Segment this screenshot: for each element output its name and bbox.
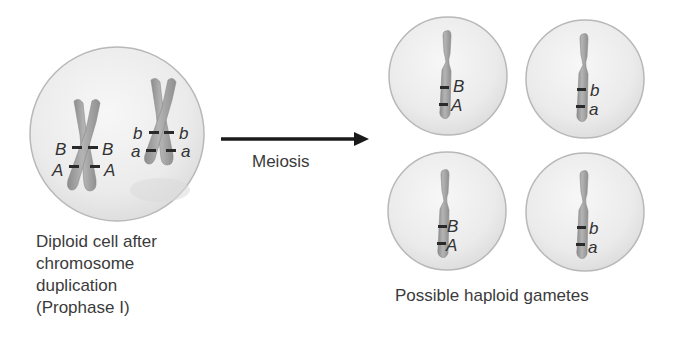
caption-line: Diploid cell after: [36, 231, 216, 253]
diploid-cell-caption: Diploid cell after chromosome duplicatio…: [36, 231, 216, 319]
band-A-right: [90, 165, 100, 168]
allele-label: A: [450, 96, 462, 115]
caption-line: chromosome: [36, 253, 216, 275]
allele-label: b: [589, 219, 598, 238]
arrow-head-icon: [354, 132, 369, 146]
caption-line: (Prophase I): [36, 297, 216, 319]
meiosis-arrow: [221, 132, 369, 146]
band-A-left: [69, 165, 79, 168]
allele-label: a: [181, 142, 190, 161]
allele-label: b: [133, 124, 142, 143]
band-a-left: [146, 149, 156, 152]
allele-label: b: [590, 81, 599, 100]
meiosis-diagram: B A B A b a b a B A b: [0, 0, 676, 350]
gametes-caption: Possible haploid gametes: [395, 285, 589, 307]
diploid-cell: B A B A b a b a: [30, 47, 204, 221]
allele-label: b: [179, 124, 188, 143]
caption-line: duplication: [36, 275, 216, 297]
gamete-cell-bottom-left: B A: [388, 152, 506, 270]
band-b-right: [164, 131, 174, 134]
gamete-cell-bottom-right: b a: [526, 153, 644, 271]
allele-label: A: [103, 161, 115, 180]
meiosis-label: Meiosis: [252, 152, 310, 172]
allele-label: A: [51, 161, 63, 180]
gamete-cell-top-right: b a: [526, 20, 644, 138]
allele-label: a: [589, 100, 598, 119]
allele-label: B: [102, 140, 113, 159]
allele-label: a: [588, 238, 597, 257]
allele-label: B: [453, 77, 464, 96]
band-B-right: [88, 146, 98, 149]
allele-label: a: [131, 142, 140, 161]
allele-label: B: [55, 140, 66, 159]
band-B-left: [72, 146, 82, 149]
gamete-cell-top-left: B A: [389, 17, 507, 135]
allele-label: B: [447, 217, 458, 236]
band-a-right: [166, 149, 176, 152]
allele-label: A: [445, 236, 457, 255]
band-b-left: [149, 131, 159, 134]
